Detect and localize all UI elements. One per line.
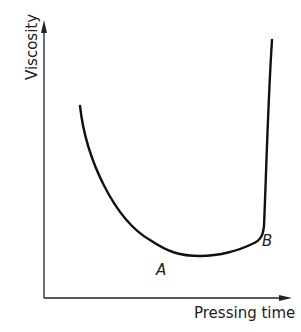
viscosity-chart: Viscosity Pressing time A B bbox=[0, 0, 301, 332]
point-b-label: B bbox=[262, 232, 272, 250]
x-axis-label: Pressing time bbox=[194, 304, 295, 322]
y-axis-label: Viscosity bbox=[23, 14, 41, 80]
point-a-label: A bbox=[155, 261, 166, 279]
y-axis-arrow-icon bbox=[41, 20, 47, 33]
viscosity-curve bbox=[80, 40, 272, 256]
x-axis-arrow-icon bbox=[279, 295, 292, 301]
